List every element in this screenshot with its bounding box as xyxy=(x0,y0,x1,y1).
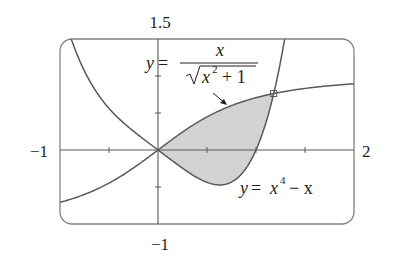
y-max-label: 1.5 xyxy=(149,13,170,32)
svg-text:x: x xyxy=(201,67,210,87)
svg-text:y: y xyxy=(144,53,154,73)
curve2-label: y = x 4 − x xyxy=(238,174,313,198)
chart: 1.5 −1 −1 2 y = x x 2 + 1 y = x 4 − x xyxy=(0,0,396,265)
svg-text:4: 4 xyxy=(280,174,286,186)
svg-text:x: x xyxy=(215,40,224,60)
curve1-label: y = x x 2 + 1 xyxy=(144,40,258,87)
x-max-label: 2 xyxy=(362,142,371,161)
svg-text:+ 1: + 1 xyxy=(222,67,246,87)
svg-text:x: x xyxy=(269,178,278,198)
svg-text:y: y xyxy=(238,178,248,198)
arrow-icon xyxy=(213,93,227,105)
x-min-label: −1 xyxy=(30,142,48,161)
svg-text:=: = xyxy=(158,53,168,73)
y-min-label: −1 xyxy=(151,235,169,254)
shaded-region xyxy=(158,94,274,185)
svg-text:− x: − x xyxy=(289,178,313,198)
svg-text:2: 2 xyxy=(212,63,218,75)
svg-text:=: = xyxy=(251,178,261,198)
